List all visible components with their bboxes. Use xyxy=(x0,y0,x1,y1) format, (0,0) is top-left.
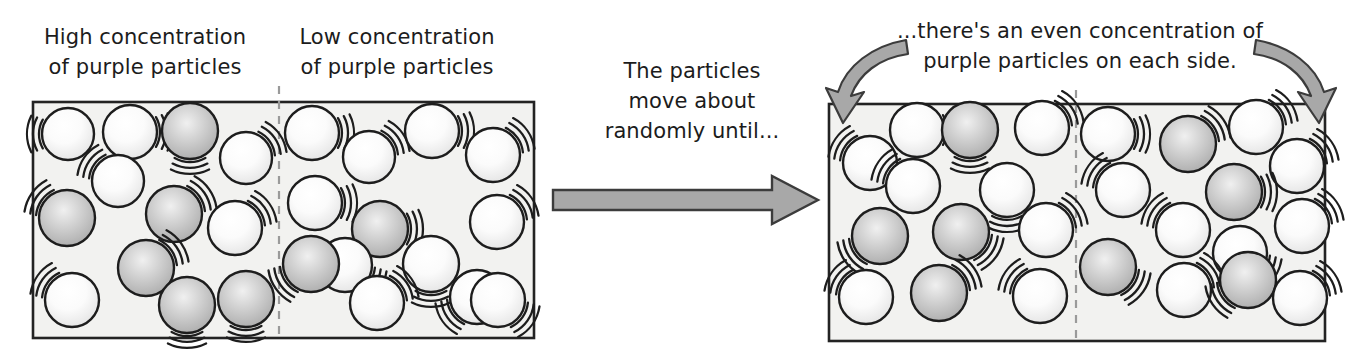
diffusion-arrow xyxy=(553,176,818,224)
particle-sphere xyxy=(1270,139,1324,193)
particle-sphere xyxy=(42,108,94,160)
particle-sphere xyxy=(146,186,202,242)
particle-sphere xyxy=(220,132,272,184)
particle-sphere xyxy=(1013,269,1067,323)
particle-sphere xyxy=(1080,239,1136,295)
particle-sphere xyxy=(218,271,274,327)
particle-sphere xyxy=(285,106,339,160)
diagram-canvas xyxy=(0,0,1348,361)
diffusion-diagram: High concentration of purple particles L… xyxy=(0,0,1348,361)
particle-sphere xyxy=(283,236,339,292)
particle-sphere xyxy=(208,201,262,255)
particle-sphere xyxy=(470,195,524,249)
particle-sphere xyxy=(1273,271,1327,325)
particle-sphere xyxy=(103,105,157,159)
particle-sphere xyxy=(890,103,944,157)
particle-sphere xyxy=(1206,164,1262,220)
particle-sphere xyxy=(466,128,520,182)
particle-sphere xyxy=(911,265,967,321)
particle-sphere xyxy=(92,155,144,207)
particle-sphere xyxy=(343,131,395,183)
particle-sphere xyxy=(1160,116,1216,172)
particle-sphere xyxy=(350,276,404,330)
particle-sphere xyxy=(39,190,95,246)
particle-sphere xyxy=(1081,107,1135,161)
particle-sphere xyxy=(1275,199,1329,253)
particle-sphere xyxy=(852,208,908,264)
particle-sphere xyxy=(159,277,215,333)
particle-sphere xyxy=(886,159,940,213)
particle-sphere xyxy=(942,102,998,158)
particle-sphere xyxy=(162,103,218,159)
particle-sphere xyxy=(980,163,1034,217)
particle-sphere xyxy=(1019,203,1073,257)
particle-sphere xyxy=(1015,101,1069,155)
particle-sphere xyxy=(288,176,342,230)
particle-sphere xyxy=(839,270,893,324)
particle-sphere xyxy=(403,236,459,292)
particle-sphere xyxy=(471,273,525,327)
particle-sphere xyxy=(1220,252,1276,308)
particle-sphere xyxy=(1229,100,1283,154)
particle-sphere xyxy=(45,273,99,327)
particle-sphere xyxy=(1157,263,1211,317)
particle-sphere xyxy=(405,104,459,158)
particle-sphere xyxy=(1096,163,1150,217)
particle-sphere xyxy=(933,204,989,260)
particle-sphere xyxy=(1156,203,1210,257)
